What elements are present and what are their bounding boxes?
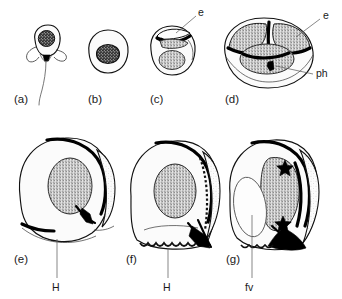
panel-a-nucleus <box>38 31 54 47</box>
panel-d-label-e: e <box>323 9 329 21</box>
panel-a-letter: (a) <box>14 93 28 105</box>
panel-c-label-e: e <box>198 6 204 18</box>
figure-plate: (a) (b) (c) e <box>0 0 342 299</box>
panel-f-inner-mass <box>154 164 196 218</box>
panel-e-letter: (e) <box>14 253 28 265</box>
figure-svg: (a) (b) (c) e <box>0 0 342 299</box>
panel-f-letter: (f) <box>126 253 137 265</box>
panel-d-label-ph: ph <box>316 67 328 79</box>
panel-e-inner-mass <box>48 158 92 214</box>
panel-g-letter: (g) <box>226 253 240 265</box>
panel-d-letter: (d) <box>225 93 239 105</box>
panel-g-label-fv: fv <box>245 281 254 293</box>
panel-f-label-h: H <box>163 281 171 293</box>
panel-e-label-h: H <box>52 281 60 293</box>
panel-c-letter: (c) <box>150 93 164 105</box>
panel-c-nucleus <box>159 51 185 70</box>
panel-b-nucleus <box>97 45 120 64</box>
panel-b-letter: (b) <box>88 93 102 105</box>
